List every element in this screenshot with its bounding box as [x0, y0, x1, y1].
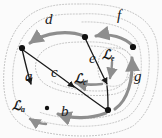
node-top[interactable]	[82, 34, 88, 40]
region-e-flow-arrow	[110, 62, 112, 78]
node-left[interactable]	[19, 45, 25, 51]
loop-label-c-sub: c	[83, 78, 87, 87]
edge-label-e: e	[89, 51, 96, 66]
edge-label-d: d	[45, 12, 53, 27]
loop-label-a: ℒa	[12, 99, 25, 114]
node-small[interactable]	[45, 106, 49, 110]
script-l-icon: ℒ	[74, 71, 83, 86]
loop-label-e-sub: e	[111, 54, 115, 63]
script-l-icon: ℒ	[12, 98, 21, 113]
region-a-boundary	[13, 14, 150, 126]
node-bottom[interactable]	[105, 107, 111, 113]
edge-g-path	[115, 58, 132, 109]
loop-label-a-sub: a	[21, 105, 25, 114]
edge-label-f: f	[117, 8, 121, 23]
region-outer-flow-arrow	[30, 119, 46, 124]
loop-label-e: ℒe	[102, 48, 115, 63]
edge-label-c: c	[51, 65, 58, 80]
script-l-icon: ℒ	[102, 47, 111, 62]
figure-canvas: a b c d e f g ℒa ℒc ℒe	[0, 0, 162, 138]
edge-d-path	[30, 33, 84, 43]
edge-label-a: a	[25, 69, 33, 84]
node-right[interactable]	[130, 44, 136, 50]
edge-e-tail	[107, 86, 108, 109]
edge-c-tail	[72, 85, 107, 110]
edge-f-path	[96, 35, 133, 46]
loop-label-c: ℒc	[74, 72, 87, 87]
edge-label-b: b	[61, 104, 69, 119]
edge-label-g: g	[134, 69, 142, 84]
